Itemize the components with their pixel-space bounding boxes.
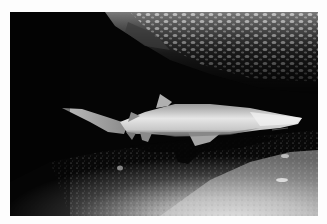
- photo-illustration: [10, 12, 318, 216]
- shark-photo: [10, 12, 318, 216]
- image-frame: Grayscale underwater photograph of a san…: [0, 0, 327, 224]
